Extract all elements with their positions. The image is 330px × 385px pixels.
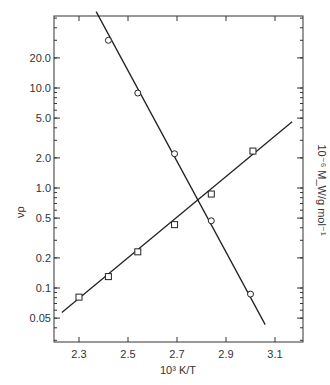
y-tick-label: 5.0 bbox=[36, 112, 51, 124]
square-marker bbox=[105, 274, 111, 280]
x-tick-label: 2.7 bbox=[169, 348, 184, 360]
x-tick-label: 2.5 bbox=[120, 348, 135, 360]
y-tick-label: 0.2 bbox=[36, 252, 51, 264]
y-tick-label: 0.05 bbox=[30, 312, 51, 324]
plot-frame bbox=[54, 16, 303, 342]
y2-axis-label: 10⁻⁶ M_W/g mol⁻¹ bbox=[316, 144, 328, 235]
square-marker bbox=[135, 249, 141, 255]
circle-marker bbox=[172, 151, 178, 157]
plot-border bbox=[54, 16, 303, 342]
circle-marker bbox=[105, 37, 111, 43]
x-tick-label: 2.9 bbox=[218, 348, 233, 360]
y-tick-label: 2.0 bbox=[36, 152, 51, 164]
y-tick-label: 0.5 bbox=[36, 212, 51, 224]
circle-marker bbox=[248, 291, 254, 297]
square-marker bbox=[250, 148, 256, 154]
y-tick-label: 1.0 bbox=[36, 182, 51, 194]
y-axis-left: 0.050.10.20.51.02.05.010.020.0 bbox=[30, 18, 60, 340]
x-tick-label: 2.3 bbox=[71, 348, 86, 360]
x-tick-label: 3.1 bbox=[267, 348, 282, 360]
fit-lines bbox=[62, 12, 292, 325]
fit-line bbox=[96, 12, 265, 325]
square-marker bbox=[208, 191, 214, 197]
y-axis-label: νρ bbox=[14, 206, 26, 218]
circle-marker bbox=[135, 90, 141, 96]
x-axis-label: 10³ K/T bbox=[160, 364, 196, 376]
y-tick-label: 10.0 bbox=[30, 82, 51, 94]
arrhenius-chart: 2.32.52.72.93.1 0.050.10.20.51.02.05.010… bbox=[0, 0, 330, 385]
x-axis: 2.32.52.72.93.1 bbox=[71, 16, 282, 360]
y-axis-right bbox=[297, 18, 303, 340]
y-tick-label: 20.0 bbox=[30, 52, 51, 64]
data-points bbox=[76, 37, 256, 300]
circle-marker bbox=[208, 218, 214, 224]
fit-line bbox=[62, 122, 292, 313]
square-marker bbox=[172, 222, 178, 228]
y-tick-label: 0.1 bbox=[36, 282, 51, 294]
square-marker bbox=[76, 294, 82, 300]
